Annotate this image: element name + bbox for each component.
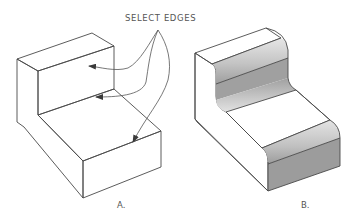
block-a-left-face [17,59,83,198]
panel-b-block [195,28,340,191]
panel-a-label: A. [117,200,125,210]
leader-step-edge [96,30,158,97]
select-edges-callout: SELECT EDGES [125,13,196,23]
leader-front-edge [133,30,170,142]
leader-upper-edge [89,30,158,70]
block-a-upper-riser-face [38,46,114,115]
panel-b-label: B. [301,200,310,210]
select-edges-leaders [89,30,170,142]
fillet-edges-diagram: SELECT EDGES A. B. [0,0,348,218]
block-a-front-face [83,131,161,198]
block-a-upper-top-face [17,33,114,71]
